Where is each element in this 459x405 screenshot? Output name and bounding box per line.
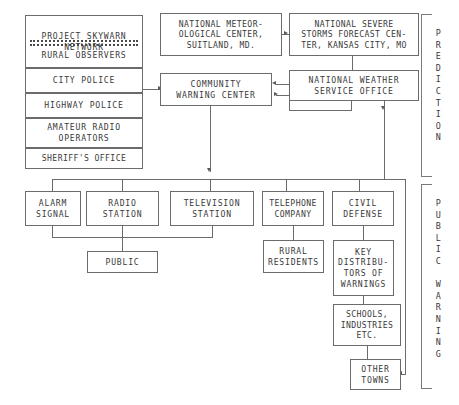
connector-civil-defense-to-key-distributors [363,226,364,241]
connector-nssfc-to-nws [352,56,353,70]
bus-drop-alarm-signal [52,179,53,191]
connector-bus-to-right-rail [384,179,406,180]
box-label: TELEVISION STATION [184,198,241,219]
box-civil-defense: CIVIL DEFENSE [332,191,394,226]
box-label: NATIONAL WEATHER SERVICE OFFICE [309,75,400,96]
box-schools-industries: SCHOOLS, INDUSTRIES ETC. [333,304,401,346]
box-label: RURAL RESIDENTS [268,246,319,267]
box-national-weather-service-office: NATIONAL WEATHER SERVICE OFFICE [289,70,419,101]
connector-cwc-to-nws-seg1 [276,95,290,96]
skywarn-dotted-separator [30,40,138,46]
box-label: RADIO STATION [103,198,143,219]
box-national-severe-storms-forecast-center: NATIONAL SEVERE STORMS FORECAST CEN- TER… [289,13,419,56]
box-label: NATIONAL METEOR- OLOGICAL CENTER, SUITLA… [179,19,263,51]
side-label-prediction: P R E D I C T I O N [432,28,445,144]
bracket-public-warning [421,184,432,389]
arrowhead-nws-to-cwc [272,81,276,85]
box-label: COMMUNITY WARNING CENTER [176,79,255,100]
connector-nws-to-cwc [276,84,289,85]
box-other-towns: OTHER TOWNS [350,359,401,390]
connector-tv-to-public-drop [212,226,213,238]
box-city-police: CITY POLICE [25,68,143,93]
side-label-public-warning: P U B L I C W A R N I N G [432,198,445,360]
box-label: HIGHWAY POLICE [44,100,123,111]
box-community-warning-center: COMMUNITY WARNING CENTER [160,73,272,106]
box-highway-police: HIGHWAY POLICE [25,93,143,118]
box-label: ALARM SIGNAL [36,198,70,219]
arrowhead-nws-to-bus [381,106,385,110]
connector-schools-to-other-towns [367,346,368,360]
connector-merge-to-public [52,237,212,238]
box-telephone-company: TELEPHONE COMPANY [262,191,324,226]
box-label: KEY DISTRIBU- TORS OF WARNINGS [338,247,389,289]
connector-telephone-to-rural-residents [293,226,294,241]
connector-cwc-to-bus [210,106,211,172]
distribution-bus-line [52,179,384,180]
box-label: AMATEUR RADIO OPERATORS [47,122,121,143]
box-amateur-radio-operators: AMATEUR RADIO OPERATORS [25,118,143,148]
box-label: NATIONAL SEVERE STORMS FORECAST CEN- TER… [301,19,406,51]
box-label: SHERIFF'S OFFICE [42,153,126,164]
arrowhead-nmc-to-nssfc [284,31,288,35]
box-label: CIVIL DEFENSE [343,198,383,219]
box-public: PUBLIC [87,251,158,273]
box-alarm-signal: ALARM SIGNAL [25,191,81,226]
box-national-meteorological-center: NATIONAL METEOR- OLOGICAL CENTER, SUITLA… [160,13,282,56]
box-key-distributors-of-warnings: KEY DISTRIBU- TORS OF WARNINGS [333,240,394,296]
bus-drop-radio-station [122,179,123,191]
box-label: OTHER TOWNS [361,364,389,385]
connector-bus-to-other-towns-vert [405,179,406,375]
bracket-prediction [421,14,432,177]
connector-radio-to-public [122,226,123,251]
box-sheriffs-office: SHERIFF'S OFFICE [25,148,143,169]
connector-cwc-to-nws-seg3 [289,110,352,111]
box-label: TELEPHONE COMPANY [269,198,316,219]
box-label: SCHOOLS, INDUSTRIES ETC. [341,309,394,341]
bus-drop-civil-defense [359,179,360,191]
box-rural-residents: RURAL RESIDENTS [263,240,324,273]
box-label: CITY POLICE [53,75,115,86]
bus-drop-telephone-company [286,179,287,191]
connector-cwc-to-nws-seg4 [351,101,352,111]
arrowhead-cwc-to-bus [207,168,211,172]
box-label: RURAL OBSERVERS [41,50,126,61]
bus-drop-television-station [210,179,211,191]
box-radio-station: RADIO STATION [86,191,159,226]
box-label: PUBLIC [105,257,139,268]
connector-nws-to-bus [384,101,385,179]
box-television-station: TELEVISION STATION [170,191,254,226]
flowchart-canvas: PROJECT SKYWARN NETWORK RURAL OBSERVERS … [0,0,459,405]
arrowhead-cwc-to-nws [274,92,278,96]
